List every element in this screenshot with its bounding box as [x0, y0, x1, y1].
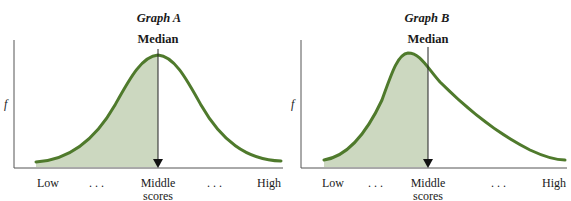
graph-b-x-dots-right: . . . — [491, 177, 506, 189]
graph-a-x-low: Low — [37, 177, 59, 189]
graph-a-x-high: High — [257, 177, 281, 189]
graph-a — [14, 40, 283, 168]
graph-a-x-dots-right: . . . — [207, 177, 222, 189]
graph-a-x-scores: scores — [143, 190, 173, 201]
graph-b-x-low: Low — [322, 177, 344, 189]
graph-b-title: Graph B — [405, 12, 450, 25]
graph-b-x-high: High — [542, 177, 566, 189]
graph-a-title: Graph A — [137, 12, 181, 25]
graph-a-shaded-area — [36, 55, 158, 167]
graph-a-x-middle: Middle — [141, 177, 176, 189]
graph-a-median-label: Median — [138, 33, 179, 46]
graph-a-y-label: f — [4, 98, 7, 110]
graphs-canvas — [0, 0, 571, 201]
graph-b — [301, 40, 567, 168]
graph-b-x-middle: Middle — [411, 177, 446, 189]
graph-a-x-dots-left: . . . — [89, 177, 104, 189]
graph-b-y-label: f — [291, 98, 294, 110]
graph-b-median-label: Median — [408, 33, 449, 46]
graph-b-x-scores: scores — [413, 190, 443, 201]
graph-b-x-dots-left: . . . — [368, 177, 383, 189]
